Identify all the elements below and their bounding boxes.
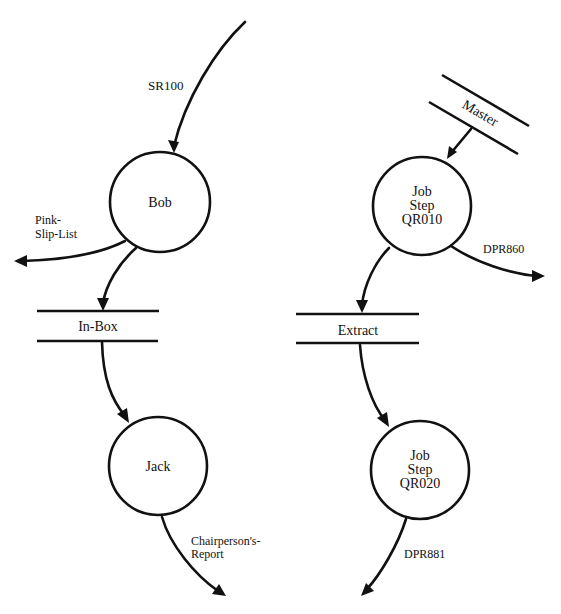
flow-master-to-qr010: [447, 129, 471, 159]
flow-qr010-to-extract: [356, 248, 389, 313]
data-flow-diagram: SR100 Bob Pink- Slip-List In-Box Jack Ch…: [0, 0, 561, 614]
flow-dpr860: DPR860: [451, 242, 545, 282]
flow-chairpersons-report: Chairperson's- Report: [162, 517, 260, 596]
flow-label-report: Report: [191, 547, 224, 561]
flow-label-pink: Pink-: [35, 213, 61, 227]
process-label-qr010-line1: Job: [412, 184, 431, 199]
process-label-qr010-line2: Step: [410, 198, 435, 213]
process-label-qr020-line1: Job: [410, 448, 429, 463]
flow-dpr881: DPR881: [361, 519, 445, 596]
store-label-extract: Extract: [338, 323, 379, 338]
flow-pink-slip-list: Pink- Slip-List: [14, 213, 125, 267]
flow-label-dpr860: DPR860: [483, 242, 524, 256]
process-label-bob: Bob: [148, 195, 171, 210]
store-extract: Extract: [296, 314, 419, 343]
process-label-qr020-line3: QR020: [400, 476, 440, 491]
process-jack: Jack: [109, 417, 207, 515]
process-label-qr010-line3: QR010: [402, 212, 442, 227]
flow-bob-to-inbox: [97, 248, 136, 311]
flow-label-slip-list: Slip-List: [35, 227, 78, 241]
store-master: Master: [429, 75, 529, 154]
flow-sr100: SR100: [148, 22, 245, 153]
flow-inbox-to-jack: [102, 342, 129, 423]
process-qr020: Job Step QR020: [371, 421, 469, 519]
store-label-inbox: In-Box: [78, 319, 118, 334]
process-label-qr020-line2: Step: [408, 462, 433, 477]
flow-label-dpr881: DPR881: [404, 547, 445, 561]
process-label-jack: Jack: [146, 459, 171, 474]
flow-extract-to-qr020: [360, 345, 389, 427]
flow-label-sr100: SR100: [148, 78, 183, 93]
store-inbox: In-Box: [37, 311, 159, 341]
process-bob: Bob: [110, 152, 210, 252]
flow-label-chairpersons: Chairperson's-: [191, 534, 260, 548]
process-qr010: Job Step QR010: [373, 157, 471, 255]
